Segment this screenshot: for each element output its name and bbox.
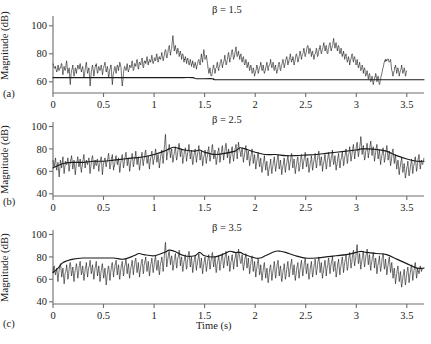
y-axis-label-b: Magnitude (dB) <box>0 116 15 204</box>
svg-text:2.5: 2.5 <box>299 99 312 110</box>
panel-c: Magnitude (dB) (c) β = 3.5 Time (s) 4060… <box>0 218 431 344</box>
svg-text:2: 2 <box>253 99 258 110</box>
svg-text:60: 60 <box>37 274 48 285</box>
svg-text:1: 1 <box>151 202 156 213</box>
panel-a-plot: 608010000.511.522.533.5 <box>0 0 431 110</box>
svg-text:0.5: 0.5 <box>97 99 110 110</box>
svg-text:80: 80 <box>37 48 48 59</box>
svg-text:2.5: 2.5 <box>299 310 312 321</box>
panel-letter-a: (a) <box>3 88 15 99</box>
svg-text:3: 3 <box>354 202 359 213</box>
svg-text:3.5: 3.5 <box>400 99 413 110</box>
panel-b-plot: 40608010000.511.522.533.5 <box>0 110 431 218</box>
svg-text:0.5: 0.5 <box>97 202 110 213</box>
svg-text:2: 2 <box>253 202 258 213</box>
svg-text:80: 80 <box>37 144 48 155</box>
svg-text:0: 0 <box>50 202 55 213</box>
svg-text:100: 100 <box>31 121 47 132</box>
svg-text:3: 3 <box>354 310 359 321</box>
y-axis-label-c: Magnitude (dB) <box>0 224 15 312</box>
panel-letter-c: (c) <box>3 318 15 329</box>
svg-text:2.5: 2.5 <box>299 202 312 213</box>
panel-a: Magnitude (dB) (a) β = 1.5 608010000.511… <box>0 0 431 110</box>
panel-a-beta-annotation: β = 1.5 <box>212 4 242 15</box>
svg-text:0.5: 0.5 <box>97 310 110 321</box>
svg-text:3: 3 <box>354 99 359 110</box>
svg-text:1: 1 <box>151 310 156 321</box>
svg-text:60: 60 <box>37 76 48 87</box>
svg-text:3.5: 3.5 <box>400 310 413 321</box>
svg-text:0: 0 <box>50 310 55 321</box>
svg-text:2: 2 <box>253 310 258 321</box>
svg-text:80: 80 <box>37 252 48 263</box>
panel-letter-b: (b) <box>3 196 15 207</box>
panel-b-beta-annotation: β = 2.5 <box>212 114 242 125</box>
svg-text:60: 60 <box>37 166 48 177</box>
panel-b: Magnitude (dB) (b) β = 2.5 40608010000.5… <box>0 110 431 218</box>
svg-text:40: 40 <box>37 296 48 307</box>
svg-text:1: 1 <box>151 99 156 110</box>
svg-text:40: 40 <box>37 188 48 199</box>
svg-text:0: 0 <box>50 99 55 110</box>
svg-text:100: 100 <box>31 229 47 240</box>
figure-magnitude-vs-time: Magnitude (dB) (a) β = 1.5 608010000.511… <box>0 0 431 344</box>
svg-text:1.5: 1.5 <box>198 99 211 110</box>
svg-text:3.5: 3.5 <box>400 202 413 213</box>
x-axis-label: Time (s) <box>196 320 232 331</box>
panel-c-beta-annotation: β = 3.5 <box>212 222 242 233</box>
svg-text:100: 100 <box>31 20 47 31</box>
y-axis-label-a: Magnitude (dB) <box>0 4 15 88</box>
svg-text:1.5: 1.5 <box>198 202 211 213</box>
